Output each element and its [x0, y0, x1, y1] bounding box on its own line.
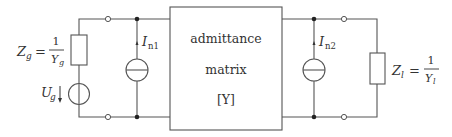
junction-dot-icon	[312, 17, 317, 22]
load-impedance-label: Z l = 1 Y l	[391, 54, 439, 86]
zg-den-sub: g	[59, 58, 64, 67]
zl-sub: l	[401, 70, 404, 80]
box-label-line2: matrix	[205, 62, 246, 77]
zl-eq: =	[409, 63, 420, 78]
in2-sub: n2	[325, 41, 336, 51]
source-voltage-label: U g	[41, 85, 56, 102]
zg-sub: g	[26, 51, 32, 61]
terminal-icon	[341, 114, 346, 119]
circuit-svg: admittance matrix [Y] Z g = 1 Y g U g I …	[0, 0, 452, 137]
zl-num: 1	[428, 54, 435, 67]
junction-dot-icon	[312, 115, 317, 120]
junction-dot-icon	[135, 115, 140, 120]
noise-current-1-label: I n1	[141, 34, 159, 51]
source-impedance-resistor-icon	[71, 35, 87, 65]
terminal-icon	[105, 16, 110, 21]
noise-current-2-label: I n2	[318, 34, 336, 51]
in2-symbol: I	[318, 34, 325, 49]
left-wires	[79, 19, 170, 117]
zg-eq: =	[35, 44, 46, 59]
voltage-source-icon	[69, 84, 90, 105]
terminal-icon	[105, 114, 110, 119]
zl-den-sub: l	[433, 77, 436, 86]
load-impedance-resistor-icon	[370, 53, 385, 84]
ug-sub: g	[50, 92, 56, 102]
right-wires	[282, 19, 377, 117]
box-label-line1: admittance	[190, 31, 261, 46]
in1-sub: n1	[148, 41, 159, 51]
circuit-diagram: admittance matrix [Y] Z g = 1 Y g U g I …	[0, 0, 452, 137]
zg-num: 1	[53, 35, 60, 48]
box-label-line3: [Y]	[217, 92, 235, 107]
source-impedance-label: Z g = 1 Y g	[16, 35, 64, 67]
in1-symbol: I	[141, 34, 148, 49]
voltage-arrow-icon	[58, 86, 62, 103]
terminal-icon	[341, 16, 346, 21]
junction-dot-icon	[135, 17, 140, 22]
